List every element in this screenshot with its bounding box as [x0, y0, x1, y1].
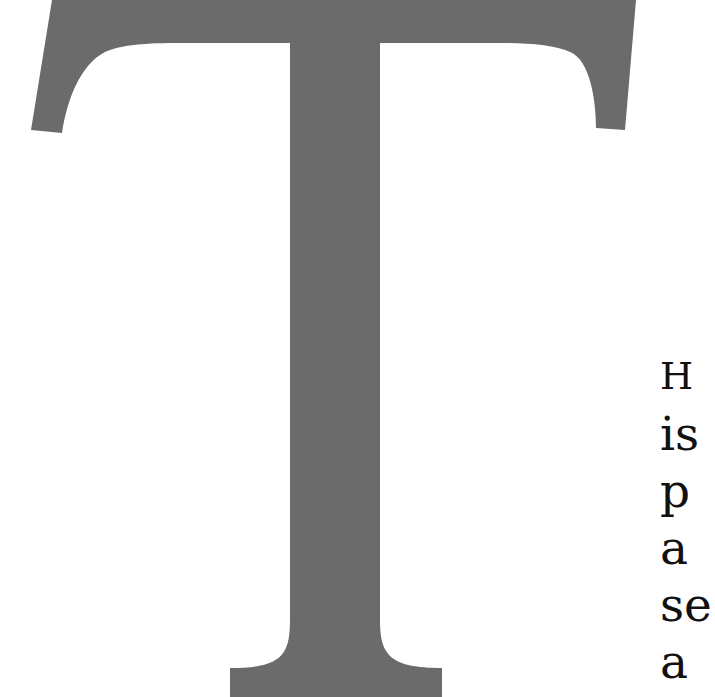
drop-cap-glyph [31, 0, 636, 697]
text-line-6: a [660, 633, 715, 690]
text-line-5: se [660, 576, 715, 633]
text-line-3: p [660, 462, 715, 519]
text-line-1: H [660, 348, 715, 405]
text-line-4: a [660, 519, 715, 576]
text-line-2: is [660, 405, 715, 462]
body-text-column: H is p a se a [660, 348, 715, 690]
